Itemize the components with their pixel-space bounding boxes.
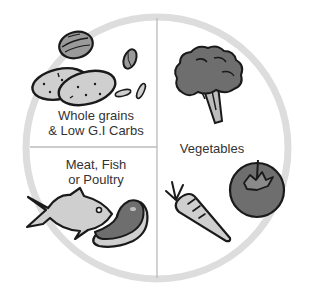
- plate-diagram: [0, 0, 311, 294]
- carrot-icon: [166, 182, 230, 241]
- seed-icon: [135, 82, 147, 99]
- tomato-icon: [230, 160, 284, 217]
- label-meat-line1: Meat, Fish: [50, 157, 142, 172]
- label-vegetables: Vegetables: [168, 141, 256, 156]
- label-whole-grains-line2: & Low G.I Carbs: [40, 123, 152, 138]
- broccoli-icon: [175, 47, 242, 123]
- label-meat-fish-poultry: Meat, Fish or Poultry: [50, 157, 142, 187]
- label-whole-grains: Whole grains & Low G.I Carbs: [40, 108, 152, 138]
- label-meat-line2: or Poultry: [50, 172, 142, 187]
- seed-icon: [114, 88, 131, 98]
- almond-icon: [121, 48, 139, 71]
- label-whole-grains-line1: Whole grains: [40, 108, 152, 123]
